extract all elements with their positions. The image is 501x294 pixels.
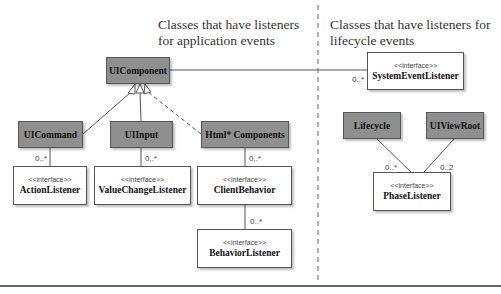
arrowhead-icon <box>128 84 135 94</box>
interface-name: ActionListener <box>20 184 81 196</box>
header-application-events: Classes that have listeners for applicat… <box>158 17 299 49</box>
multiplicity-label: 0..* <box>352 75 364 84</box>
class-name: Html* Components <box>205 130 284 140</box>
interface-name: SystemEventListener <box>372 70 459 82</box>
multiplicity-label: 0..* <box>249 154 261 163</box>
multiplicity-label: 0..2 <box>440 163 453 172</box>
multiplicity-label: 0..* <box>145 154 157 163</box>
multiplicity-label: 0..* <box>385 163 397 172</box>
class-lifecycle: Lifecycle <box>343 112 401 139</box>
stereotype-label: <<interface>> <box>223 238 266 247</box>
stereotype-label: <<interface>> <box>390 181 433 190</box>
stereotype-label: <<interface>> <box>121 175 164 184</box>
arrowhead-icon <box>144 84 151 94</box>
header-line: Classes that have listeners <box>158 17 299 33</box>
header-line: Classes that have listeners for <box>330 17 490 33</box>
header-line: lifecycle events <box>330 33 490 49</box>
generalization-uiinput <box>140 92 141 121</box>
interface-name: PhaseListener <box>383 190 441 202</box>
class-name: UIViewRoot <box>430 121 480 131</box>
class-name: UIComponent <box>109 66 167 76</box>
interface-name: BehaviorListener <box>209 247 280 259</box>
multiplicity-label: 0..* <box>35 154 47 163</box>
stereotype-label: <<interface>> <box>223 175 266 184</box>
class-uicomponent: UIComponent <box>106 57 170 84</box>
class-uiinput: UIInput <box>110 121 173 148</box>
interface-phase-listener: <<interface>> PhaseListener <box>373 172 451 211</box>
interface-client-behavior: <<interface>> ClientBehavior <box>197 166 292 205</box>
multiplicity-label: 0..* <box>250 217 262 226</box>
stereotype-label: <<interface>> <box>394 61 437 70</box>
interface-behavior-listener: <<interface>> BehaviorListener <box>197 229 292 268</box>
header-lifecycle-events: Classes that have listeners for lifecycl… <box>330 17 490 49</box>
interface-value-change-listener: <<interface>> ValueChangeListener <box>94 166 191 205</box>
stereotype-label: <<interface>> <box>28 175 71 184</box>
class-html-components: Html* Components <box>201 121 289 148</box>
interface-action-listener: <<interface>> ActionListener <box>13 166 87 205</box>
class-name: UIInput <box>125 130 158 140</box>
class-name: UICommand <box>24 130 77 140</box>
interface-name: ClientBehavior <box>214 184 276 196</box>
interface-system-event-listener: <<interface>> SystemEventListener <box>367 52 464 90</box>
header-line: for application events <box>158 33 299 49</box>
class-name: Lifecycle <box>354 121 390 131</box>
arrowhead-icon <box>136 84 144 93</box>
class-uiviewroot: UIViewRoot <box>426 112 484 139</box>
interface-name: ValueChangeListener <box>99 184 187 196</box>
class-uicommand: UICommand <box>18 121 83 148</box>
